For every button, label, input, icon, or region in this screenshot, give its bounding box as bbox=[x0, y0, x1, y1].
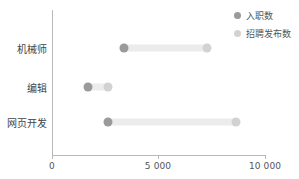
x-tick-label-0: 0 bbox=[49, 161, 55, 171]
x-tick-mark-5000 bbox=[158, 155, 159, 159]
data-point-hired-editor[interactable] bbox=[84, 83, 93, 92]
x-tick-label-5000: 5 000 bbox=[145, 161, 171, 171]
y-category-label-web-development: 网页开发 bbox=[7, 115, 47, 130]
legend-label-postings: 招聘发布数 bbox=[246, 27, 291, 40]
data-point-hired-web-development[interactable] bbox=[104, 118, 113, 127]
data-point-hired-mechanic[interactable] bbox=[120, 44, 129, 53]
dumbbell-connector-web-development bbox=[108, 119, 236, 126]
legend-swatch-circle-icon bbox=[234, 30, 241, 37]
chart-legend: 入职数 招聘发布数 bbox=[234, 9, 291, 40]
legend-swatch-circle-icon bbox=[234, 12, 241, 19]
y-category-label-mechanic: 机械师 bbox=[17, 41, 47, 56]
legend-item-hired[interactable]: 入职数 bbox=[234, 9, 273, 22]
y-category-label-editor: 编辑 bbox=[27, 80, 47, 95]
x-tick-mark-0 bbox=[52, 155, 53, 159]
dumbbell-connector-mechanic bbox=[124, 45, 207, 52]
x-tick-label-10000: 10 000 bbox=[249, 161, 281, 171]
data-point-postings-web-development[interactable] bbox=[232, 118, 241, 127]
data-point-postings-editor[interactable] bbox=[104, 83, 113, 92]
data-point-postings-mechanic[interactable] bbox=[203, 44, 212, 53]
dumbbell-chart: 0 5 000 10 000 机械师 编辑 网页开发 入职数 招聘发布数 bbox=[0, 0, 299, 179]
x-tick-mark-10000 bbox=[265, 155, 266, 159]
legend-item-postings[interactable]: 招聘发布数 bbox=[234, 27, 291, 40]
legend-label-hired: 入职数 bbox=[246, 9, 273, 22]
y-axis-line bbox=[52, 10, 53, 155]
